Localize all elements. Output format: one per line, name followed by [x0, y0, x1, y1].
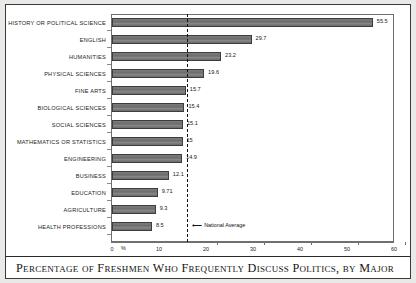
bar-track [112, 184, 394, 201]
bar-row: HUMANITIES23.2 [6, 48, 400, 65]
y-axis-tick [107, 132, 111, 133]
bar [112, 154, 182, 164]
bar-value-label: 8.5 [156, 221, 164, 229]
bar-track [112, 218, 394, 235]
figure-container: HISTORY OR POLITICAL SCIENCE55.5ENGLISH2… [0, 0, 416, 283]
bar-value-label: 12.1 [173, 170, 184, 178]
national-average-label: National Average [204, 222, 245, 228]
bar-value-label: 15.4 [188, 102, 199, 110]
bar-value-label: 9.3 [160, 204, 168, 212]
bar-row: AGRICULTURE9.3 [6, 201, 400, 218]
y-axis-tick [107, 115, 111, 116]
y-axis-tick [107, 217, 111, 218]
y-axis-tick [107, 183, 111, 184]
x-axis-tick [311, 242, 312, 245]
bar-value-label: 15.1 [187, 119, 198, 127]
x-axis-tick [358, 242, 359, 245]
left-arrow-icon: ⟵ [192, 223, 202, 228]
bar [112, 188, 158, 198]
x-axis-tick-label: 40 [297, 246, 303, 252]
bar-row: HISTORY OR POLITICAL SCIENCE55.5 [6, 14, 400, 31]
bar-value-label: 15.7 [190, 85, 201, 93]
bar-row: BIOLOGICAL SCIENCES15.4 [6, 99, 400, 116]
y-axis-tick [107, 64, 111, 65]
x-axis-tick [264, 242, 265, 245]
bar-track [112, 65, 394, 82]
category-label: AGRICULTURE [6, 206, 106, 214]
bar [112, 137, 183, 147]
caption-divider [5, 256, 411, 257]
x-axis-tick-label: 20 [203, 246, 209, 252]
bar [112, 205, 156, 215]
bar-track [112, 31, 394, 48]
y-axis-tick [107, 98, 111, 99]
bar [112, 69, 204, 79]
category-label: BUSINESS [6, 172, 106, 180]
category-label: BIOLOGICAL SCIENCES [6, 104, 106, 112]
bar-value-label: 29.7 [256, 34, 267, 42]
bar-track [112, 167, 394, 184]
y-axis-tick [107, 30, 111, 31]
bar [112, 18, 373, 28]
bar-row: BUSINESS12.1 [6, 167, 400, 184]
category-label: MATHEMATICS OR STATISTICS [6, 138, 106, 146]
category-label: PHYSICAL SCIENCES [6, 70, 106, 78]
bar-track [112, 14, 394, 31]
category-label: EDUCATION [6, 189, 106, 197]
bar-track [112, 116, 394, 133]
bar-value-label: 9.71 [162, 187, 173, 195]
bar-row: FINE ARTS15.7 [6, 82, 400, 99]
y-axis-tick [107, 149, 111, 150]
bar-track [112, 99, 394, 116]
bar-row: MATHEMATICS OR STATISTICS15 [6, 133, 400, 150]
bar-value-label: 55.5 [377, 17, 388, 25]
x-axis-tick-label: 10 [156, 246, 162, 252]
bar-row: EDUCATION9.71 [6, 184, 400, 201]
figure-caption: Percentage of Freshmen Who Frequently Di… [16, 261, 406, 276]
category-label: SOCIAL SCIENCES [6, 121, 106, 129]
category-label: HISTORY OR POLITICAL SCIENCE [6, 19, 106, 27]
bar-track [112, 48, 394, 65]
category-label: HEALTH PROFESSIONS [6, 223, 106, 231]
y-axis-tick [107, 200, 111, 201]
national-average-annotation: ⟵ National Average [192, 222, 245, 228]
category-label: HUMANITIES [6, 53, 106, 61]
bar [112, 35, 252, 45]
category-label: ENGINEERING [6, 155, 106, 163]
bar-value-label: 23.2 [225, 51, 236, 59]
bar [112, 120, 183, 130]
bar-row: SOCIAL SCIENCES15.1 [6, 116, 400, 133]
y-axis-tick [107, 234, 111, 235]
category-label: ENGLISH [6, 36, 106, 44]
bar [112, 52, 221, 62]
bar [112, 86, 186, 96]
bar-track [112, 150, 394, 167]
bar-rows: HISTORY OR POLITICAL SCIENCE55.5ENGLISH2… [6, 14, 400, 236]
bar [112, 171, 169, 181]
national-average-line [187, 14, 188, 242]
plot-area: HISTORY OR POLITICAL SCIENCE55.5ENGLISH2… [6, 6, 400, 249]
x-axis-tick [405, 242, 406, 245]
x-axis-tick [217, 242, 218, 245]
bar [112, 103, 184, 113]
x-axis-tick-label: 60 [391, 246, 397, 252]
x-axis-tick-label: 0 [111, 246, 114, 252]
bar-value-label: 19.6 [208, 68, 219, 76]
bar-row: PHYSICAL SCIENCES19.6 [6, 65, 400, 82]
x-axis-tick-label: 50 [344, 246, 350, 252]
x-axis-tick-label: 30 [250, 246, 256, 252]
x-axis [111, 242, 394, 243]
bar [112, 222, 152, 232]
bar-row: ENGLISH29.7 [6, 31, 400, 48]
bar-track [112, 82, 394, 99]
x-axis-unit-label: % [121, 245, 126, 251]
bar-track [112, 201, 394, 218]
y-axis-tick [107, 47, 111, 48]
bar-row: ENGINEERING14.9 [6, 150, 400, 167]
y-axis-tick [107, 81, 111, 82]
bar-track [112, 133, 394, 150]
y-axis-tick [107, 166, 111, 167]
category-label: FINE ARTS [6, 87, 106, 95]
